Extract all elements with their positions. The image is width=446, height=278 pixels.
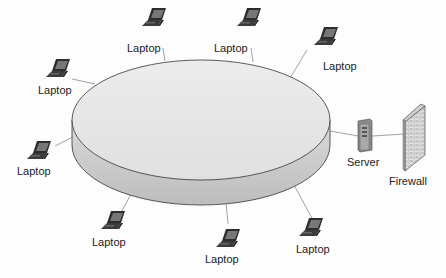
laptop-3[interactable] <box>314 27 338 45</box>
laptop-icon <box>216 229 240 247</box>
server-label: Server <box>347 156 380 168</box>
link-laptop-8 <box>294 185 313 220</box>
laptop-icon <box>46 59 70 77</box>
laptop-1-label: Laptop <box>127 42 161 54</box>
link-laptop-7 <box>226 203 228 224</box>
server[interactable]: Server <box>347 119 380 168</box>
laptop-2-label: Laptop <box>214 42 248 54</box>
laptop-7-label: Laptop <box>205 253 239 265</box>
laptop-4-label: Laptop <box>38 84 72 96</box>
laptop-5[interactable] <box>27 141 51 159</box>
laptop-6-label: Laptop <box>92 236 126 248</box>
laptop-4[interactable] <box>46 59 70 77</box>
laptop-5-label: Laptop <box>17 165 51 177</box>
laptop-icon <box>314 27 338 45</box>
laptop-7[interactable] <box>216 229 240 247</box>
laptop-1[interactable] <box>142 8 166 26</box>
laptop-8[interactable] <box>299 218 323 236</box>
laptop-icon <box>101 211 125 229</box>
link-laptop-1 <box>163 48 165 61</box>
laptop-3-label: Laptop <box>323 60 357 72</box>
laptop-icon <box>27 141 51 159</box>
link-server-firewall <box>372 134 405 136</box>
server-icon <box>358 119 372 152</box>
firewall-icon <box>403 104 425 171</box>
disc-top <box>72 60 330 180</box>
laptop-icon <box>237 8 261 26</box>
link-server <box>330 131 358 136</box>
link-laptop-2 <box>251 48 253 62</box>
firewall[interactable]: Firewall <box>389 104 427 187</box>
firewall-label: Firewall <box>389 175 427 187</box>
laptop-2[interactable] <box>237 8 261 26</box>
laptop-icon <box>299 218 323 236</box>
diagram-canvas: Laptop Laptop Laptop Laptop Laptop Lapto… <box>0 0 446 278</box>
link-laptop-5 <box>55 137 73 146</box>
laptop-6[interactable] <box>101 211 125 229</box>
network-diagram: Laptop Laptop Laptop Laptop Laptop Lapto… <box>0 0 446 278</box>
link-laptop-6 <box>122 194 131 211</box>
network-disc <box>72 60 330 205</box>
link-laptop-4 <box>72 79 95 84</box>
laptop-icon <box>142 8 166 26</box>
laptop-8-label: Laptop <box>296 243 330 255</box>
